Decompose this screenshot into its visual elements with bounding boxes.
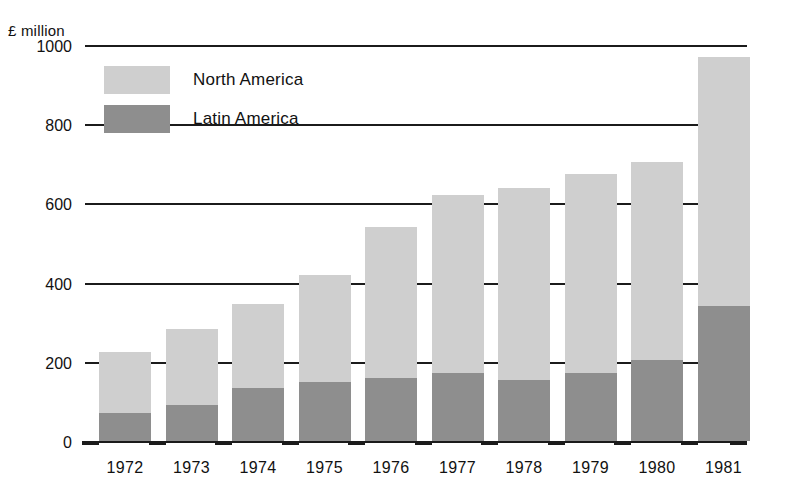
bar-group (99, 352, 151, 441)
bar-group (432, 195, 484, 441)
x-axis-tick (614, 441, 631, 445)
bar-chart: £ million 02004006008001000 197219731974… (0, 0, 795, 493)
x-axis-tick (282, 441, 299, 445)
bar-segment-north-america (565, 174, 617, 373)
bar-segment-latin-america (299, 382, 351, 441)
x-axis-tick (548, 441, 565, 445)
x-axis-tick (82, 441, 99, 445)
bar-group (698, 57, 750, 441)
bar-group (631, 162, 683, 441)
x-axis-tick (681, 441, 698, 445)
x-axis-tick-end (730, 441, 747, 445)
bar-group (166, 329, 218, 441)
legend-item-latin-america: Latin America (104, 102, 303, 135)
bar-segment-latin-america (166, 405, 218, 441)
bar-group (365, 227, 417, 441)
bar-segment-north-america (232, 304, 284, 387)
bar-group (498, 188, 550, 441)
y-axis-tick-label: 400 (45, 275, 72, 293)
legend-swatch-north-america (104, 66, 170, 94)
bar-segment-north-america (99, 352, 151, 413)
y-axis-tick-label: 800 (45, 117, 72, 135)
y-axis-tick-label: 600 (45, 196, 72, 214)
bar-group (299, 275, 351, 441)
bar-segment-north-america (365, 227, 417, 377)
legend-item-north-america: North America (104, 63, 303, 96)
bar-segment-north-america (698, 57, 750, 306)
x-axis-tick (415, 441, 432, 445)
bar-segment-latin-america (698, 306, 750, 441)
bar-segment-latin-america (99, 413, 151, 441)
bar-segment-latin-america (365, 378, 417, 441)
bar-segment-north-america (631, 162, 683, 360)
bar-segment-north-america (498, 188, 550, 380)
bar-segment-latin-america (432, 373, 484, 441)
y-axis-tick-label: 200 (45, 354, 72, 372)
x-axis-tick (149, 441, 166, 445)
legend-label-latin-america: Latin America (193, 109, 299, 129)
x-axis-label-1981: 1981 (684, 459, 764, 477)
legend-swatch-latin-america (104, 105, 170, 133)
bar-segment-north-america (432, 195, 484, 372)
bar-segment-latin-america (631, 360, 683, 441)
bar-segment-latin-america (565, 373, 617, 441)
chart-legend: North America Latin America (104, 63, 303, 141)
bar-segment-north-america (299, 275, 351, 383)
bar-segment-latin-america (498, 380, 550, 441)
bar-group (565, 174, 617, 441)
bar-segment-north-america (166, 329, 218, 405)
x-axis-tick (481, 441, 498, 445)
y-axis-unit-label: £ million (8, 22, 65, 39)
bar-group (232, 304, 284, 441)
x-axis-tick (348, 441, 365, 445)
y-axis-tick-label: 1000 (36, 38, 72, 56)
legend-label-north-america: North America (193, 70, 303, 90)
bar-segment-latin-america (232, 388, 284, 441)
x-axis-tick (215, 441, 232, 445)
y-axis-tick-label: 0 (63, 434, 72, 452)
